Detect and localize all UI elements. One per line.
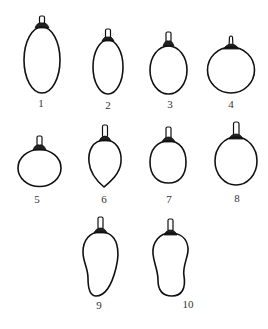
shape-label-3: 3	[167, 99, 173, 110]
berry-shape-5	[18, 136, 61, 187]
shape-label-10: 10	[183, 299, 194, 310]
shape-label-8: 8	[234, 193, 240, 204]
berry-shape-7	[150, 127, 186, 183]
shape-label-7: 7	[166, 194, 172, 205]
shape-label-6: 6	[101, 194, 107, 205]
berry-shape-2	[93, 29, 123, 94]
shape-label-2: 2	[105, 100, 111, 111]
shapes-canvas	[0, 0, 268, 329]
shape-label-4: 4	[228, 99, 234, 110]
berry-shape-9	[83, 217, 118, 296]
shape-label-1: 1	[38, 98, 44, 109]
berry-shape-6	[89, 125, 121, 187]
shape-label-5: 5	[34, 194, 40, 205]
berry-shape-diagram: 1 2 3 4 5 6 7 8 9 10	[0, 0, 268, 329]
berry-shape-1	[24, 16, 60, 93]
berry-shape-8	[215, 122, 257, 185]
berry-shape-4	[208, 36, 255, 93]
berry-shape-3	[150, 32, 187, 94]
berry-shape-10	[153, 219, 188, 296]
shape-label-9: 9	[96, 300, 102, 311]
